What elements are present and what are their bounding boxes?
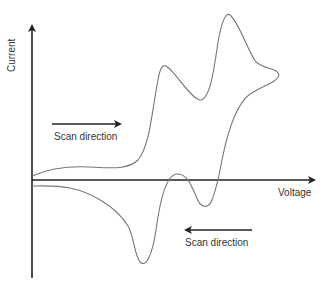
forward-scan-label: Scan direction <box>54 131 117 142</box>
x-axis-label: Voltage <box>278 187 311 198</box>
voltammogram-figure <box>0 0 332 292</box>
reverse-scan-label: Scan direction <box>185 237 248 248</box>
y-axis-label: Current <box>6 39 17 72</box>
